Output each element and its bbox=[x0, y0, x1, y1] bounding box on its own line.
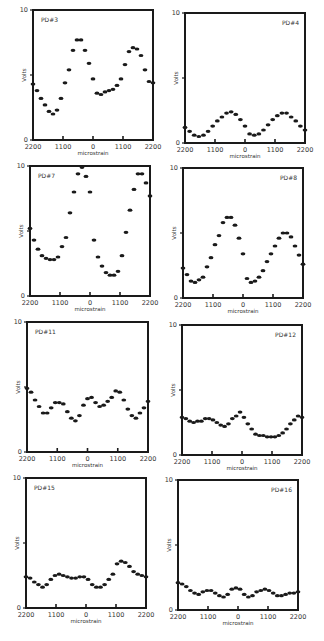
data-point bbox=[181, 267, 186, 270]
data-point bbox=[48, 578, 53, 581]
data-point bbox=[28, 227, 33, 230]
data-point bbox=[72, 190, 77, 193]
x-tick-label: 1100 bbox=[260, 613, 277, 621]
data-point bbox=[112, 274, 117, 277]
data-point bbox=[68, 211, 73, 214]
data-point bbox=[111, 88, 116, 91]
data-point bbox=[105, 400, 110, 403]
data-point bbox=[92, 239, 97, 242]
data-point bbox=[43, 103, 48, 106]
data-point bbox=[151, 81, 156, 84]
data-point bbox=[115, 84, 120, 87]
data-point bbox=[200, 590, 205, 593]
data-point bbox=[242, 416, 247, 419]
data-point bbox=[102, 583, 107, 586]
data-point bbox=[192, 134, 197, 137]
data-point bbox=[36, 248, 41, 251]
data-point bbox=[300, 416, 305, 419]
y-axis-title: Volts bbox=[166, 538, 172, 551]
x-tick-label: 2200 bbox=[175, 301, 192, 309]
data-point bbox=[115, 562, 120, 565]
data-point bbox=[279, 594, 284, 597]
data-point bbox=[277, 237, 282, 240]
y-tick-label: 10 bbox=[20, 6, 28, 14]
data-point bbox=[213, 592, 218, 595]
data-point bbox=[297, 254, 302, 257]
data-point bbox=[65, 575, 70, 578]
data-point bbox=[276, 434, 281, 437]
data-point bbox=[185, 273, 190, 276]
data-point bbox=[213, 243, 218, 246]
data-point bbox=[124, 231, 129, 234]
data-point bbox=[222, 425, 227, 428]
x-tick-label: 2200 bbox=[294, 458, 311, 466]
data-point bbox=[217, 234, 222, 237]
panel-label: PD#8 bbox=[280, 174, 297, 181]
x-tick-label: 1100 bbox=[108, 611, 125, 619]
data-point bbox=[86, 578, 91, 581]
panel-label: PD#15 bbox=[34, 484, 55, 491]
x-tick-label: 2200 bbox=[18, 611, 35, 619]
data-point bbox=[238, 411, 243, 414]
data-point bbox=[284, 112, 289, 115]
data-point bbox=[100, 265, 105, 268]
data-point bbox=[292, 418, 297, 421]
x-tick-label: 1100 bbox=[207, 146, 224, 154]
data-point bbox=[84, 175, 89, 178]
panel-pd11: PD#11010Volts22001100011002200microstrai… bbox=[14, 318, 157, 468]
data-point bbox=[106, 578, 111, 581]
x-tick-label: 1100 bbox=[109, 455, 126, 463]
data-point bbox=[25, 387, 30, 390]
data-point bbox=[221, 221, 226, 224]
data-point bbox=[83, 49, 88, 52]
y-tick-label: 10 bbox=[170, 164, 178, 172]
data-point bbox=[188, 589, 193, 592]
data-point bbox=[51, 112, 56, 115]
x-axis-title: microstrain bbox=[226, 465, 258, 471]
plot-frame bbox=[33, 10, 153, 140]
data-point bbox=[146, 400, 151, 403]
x-tick-label: 2200 bbox=[295, 301, 312, 309]
panel-label: PD#16 bbox=[271, 486, 292, 493]
x-tick-label: 2200 bbox=[138, 611, 155, 619]
data-point bbox=[49, 406, 54, 409]
x-tick-label: 2200 bbox=[177, 146, 194, 154]
data-point bbox=[234, 414, 239, 417]
data-point bbox=[275, 594, 280, 597]
data-point bbox=[131, 570, 136, 573]
data-point bbox=[289, 115, 294, 118]
x-tick-label: 2200 bbox=[174, 458, 191, 466]
x-axis-title: microstrain bbox=[72, 462, 104, 468]
data-point bbox=[291, 592, 296, 595]
data-point bbox=[138, 411, 143, 414]
plot-frame bbox=[26, 478, 146, 608]
x-tick-label: 2200 bbox=[19, 455, 36, 463]
data-point bbox=[32, 580, 37, 583]
data-point bbox=[44, 583, 49, 586]
data-point bbox=[47, 110, 52, 113]
y-axis-title: Volts bbox=[21, 68, 27, 81]
figure-grid: PD#3010Volts22001100011002200microstrain… bbox=[0, 0, 324, 641]
y-axis-title: Volts bbox=[18, 224, 24, 237]
data-point bbox=[77, 414, 82, 417]
data-point bbox=[275, 114, 280, 117]
data-point bbox=[303, 128, 308, 131]
x-tick-label: 1100 bbox=[115, 143, 132, 151]
data-point bbox=[91, 77, 96, 80]
data-point bbox=[280, 431, 285, 434]
y-axis-title: Volts bbox=[15, 380, 21, 393]
data-point bbox=[262, 588, 267, 591]
x-axis-title: microstrain bbox=[227, 308, 259, 314]
data-point bbox=[238, 118, 243, 121]
data-point bbox=[28, 577, 33, 580]
y-tick-label: 10 bbox=[13, 474, 21, 482]
data-point bbox=[132, 188, 137, 191]
x-tick-label: 2200 bbox=[145, 143, 162, 151]
data-point bbox=[250, 594, 255, 597]
data-point bbox=[40, 254, 45, 257]
data-point bbox=[35, 89, 40, 92]
data-point bbox=[109, 396, 114, 399]
data-point bbox=[254, 590, 259, 593]
panel-pd8: PD#8010Volts22001100011002200microstrain bbox=[170, 164, 312, 314]
data-point bbox=[89, 396, 94, 399]
